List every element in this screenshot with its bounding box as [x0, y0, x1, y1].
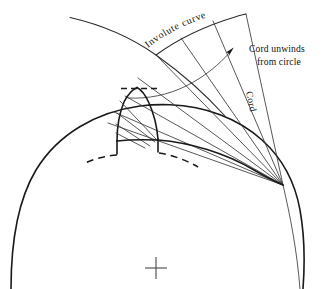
tooth-left-flank	[117, 88, 137, 142]
cord-line-4	[156, 55, 283, 185]
root-circle-dashed-left	[85, 155, 117, 163]
cord-label: Cord	[244, 90, 259, 113]
cord-unwinds-label-line1: Cord unwinds	[249, 43, 305, 54]
involute-curve-label: Involute curve	[142, 9, 207, 50]
cross-mark-icon	[145, 257, 167, 279]
diagram-canvas: Involute curve Cord unwinds from circle …	[0, 0, 326, 289]
cord-unwinds-label-line2: from circle	[257, 56, 301, 67]
involute-gear-diagram: Involute curve Cord unwinds from circle …	[0, 0, 326, 289]
cord-line-8	[108, 123, 283, 185]
root-circle-dashed-right	[159, 153, 198, 167]
cord-unwind-arc	[128, 51, 231, 98]
